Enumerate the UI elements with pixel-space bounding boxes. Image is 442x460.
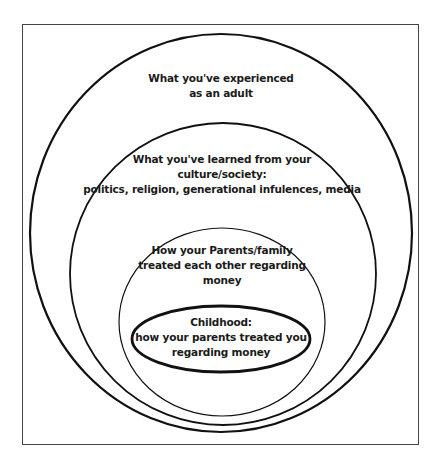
nested-ellipses: [0, 0, 442, 460]
label-line: What you've experienced: [148, 71, 293, 86]
label-line: Childhood:: [135, 315, 306, 330]
label-line: How your Parents/family: [138, 243, 306, 258]
label-line: culture/society:: [83, 167, 361, 182]
label-line: regarding money: [135, 345, 306, 360]
label-childhood: Childhood: how your parents treated you …: [135, 315, 306, 360]
label-line: What you've learned from your: [83, 152, 361, 167]
label-parents-family: How your Parents/family treated each oth…: [138, 243, 306, 288]
label-line: how your parents treated you: [135, 330, 306, 345]
label-culture: What you've learned from your culture/so…: [83, 152, 361, 197]
label-adult: What you've experienced as an adult: [148, 71, 293, 101]
label-line: money: [138, 273, 306, 288]
label-line: as an adult: [148, 86, 293, 101]
label-line: treated each other regarding: [138, 258, 306, 273]
label-line: politics, religion, generational infulen…: [83, 182, 361, 197]
